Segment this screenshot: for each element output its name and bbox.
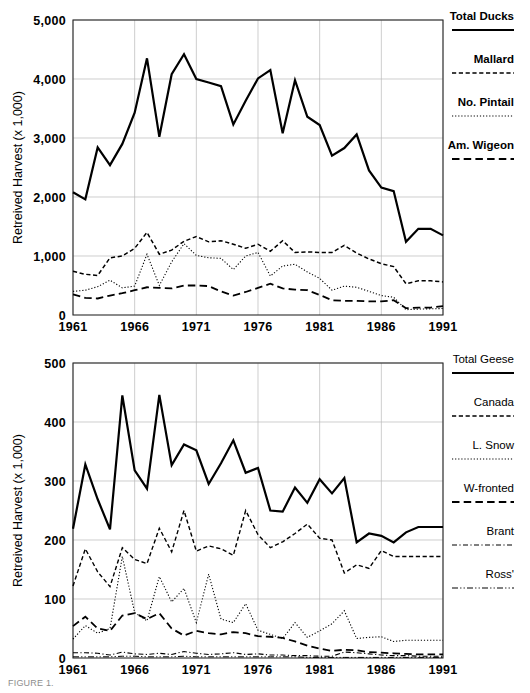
x-axis-tick-label: 1976: [243, 320, 272, 334]
legend-label-l-snow: L. Snow: [472, 439, 514, 451]
chart-panel-geese: 0100200300400500196119661971197619811986…: [0, 345, 530, 693]
goose-harvest-chart: 0100200300400500196119661971197619811986…: [0, 345, 530, 693]
y-axis-title: Retreived Harvest (x 1,000): [11, 91, 25, 244]
x-axis-tick-label: 1991: [428, 320, 457, 334]
y-axis-tick-label: 500: [44, 357, 66, 371]
y-axis-tick-label: 5,000: [33, 14, 66, 28]
x-axis-tick-label: 1981: [305, 320, 334, 334]
x-axis-tick-label: 1966: [120, 320, 149, 334]
y-axis-tick-label: 200: [44, 534, 66, 548]
legend-label-total-geese: Total Geese: [453, 353, 514, 365]
legend-label-canada: Canada: [474, 396, 515, 408]
y-axis-tick-label: 3,000: [33, 132, 66, 146]
y-axis-tick-label: 100: [44, 593, 66, 607]
figure-container: 01,0002,0003,0004,0005,00019611966197119…: [0, 0, 530, 693]
duck-harvest-chart: 01,0002,0003,0004,0005,00019611966197119…: [0, 0, 530, 345]
x-axis-tick-label: 1971: [182, 320, 211, 334]
legend-label-total-ducks: Total Ducks: [450, 10, 514, 22]
y-axis-title: Retreived Harvest (x 1,000): [11, 434, 25, 587]
x-axis-tick-label: 1986: [367, 663, 396, 677]
x-axis-tick-label: 1976: [243, 663, 272, 677]
legend-label-brant: Brant: [487, 525, 515, 537]
series-line-ross: [73, 656, 443, 657]
legend-label-mallard: Mallard: [474, 53, 514, 65]
x-axis-tick-label: 1971: [182, 663, 211, 677]
y-axis-tick-label: 4,000: [33, 73, 66, 87]
figure-caption: FIGURE 1.: [8, 678, 528, 690]
x-axis-tick-label: 1961: [58, 320, 87, 334]
x-axis-tick-label: 1991: [428, 663, 457, 677]
y-axis-tick-label: 300: [44, 475, 66, 489]
x-axis-tick-label: 1981: [305, 663, 334, 677]
y-axis-tick-label: 1,000: [33, 250, 66, 264]
x-axis-tick-label: 1961: [58, 663, 87, 677]
legend-label-am-wigeon: Am. Wigeon: [448, 139, 514, 151]
legend-label-ross: Ross': [486, 568, 514, 580]
y-axis-tick-label: 2,000: [33, 191, 66, 205]
x-axis-tick-label: 1986: [367, 320, 396, 334]
chart-panel-ducks: 01,0002,0003,0004,0005,00019611966197119…: [0, 0, 530, 345]
x-axis-tick-label: 1966: [120, 663, 149, 677]
legend-label-no-pintail: No. Pintail: [458, 96, 514, 108]
y-axis-tick-label: 400: [44, 416, 66, 430]
legend-label-w-fronted: W-fronted: [464, 482, 514, 494]
